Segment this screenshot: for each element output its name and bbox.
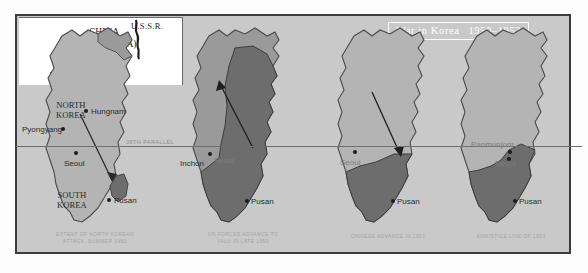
figure-page: War in Korea1950–1953 CHINA (MANCHURIA) …: [0, 0, 588, 273]
map-armistice-line: [443, 26, 583, 241]
map-caption-4: ARMISTICE LINE OF 1953: [436, 233, 586, 240]
map-caption-2-line1: UN FORCES ADVANCE TO: [208, 232, 278, 237]
city-label-inchon: Inchon: [180, 159, 204, 168]
map-caption-2: UN FORCES ADVANCE TO YALU IN LATE 1950: [168, 231, 318, 245]
city-label-pusan-2: Pusan: [251, 197, 274, 206]
city-label-pusan-1: Pusan: [114, 196, 137, 205]
city-label-seoul-1: Seoul: [64, 159, 84, 168]
city-dot-pusan-3: [391, 199, 395, 203]
map-caption-1-line2: ATTACK, SUMMER 1950: [63, 239, 127, 244]
map-caption-3-line1: CHINESE ADVANCE IN 1951: [351, 234, 426, 239]
south-korea-line2: KOREA: [57, 200, 87, 210]
region-label-south-korea: SOUTH KOREA: [57, 190, 87, 210]
city-label-seoul-4: Seoul: [495, 159, 515, 168]
map-caption-4-line1: ARMISTICE LINE OF 1953: [476, 234, 545, 239]
city-dot-pusan-2: [245, 199, 249, 203]
map-caption-1-line1: EXTENT OF NORTH KOREAN: [56, 232, 134, 237]
north-korea-line1: NORTH: [56, 100, 85, 110]
korea-peninsula-svg-4: [443, 26, 583, 241]
city-label-seoul-2: Seoul: [214, 156, 234, 165]
korea-peninsula-svg-2: [175, 26, 315, 241]
city-dot-hungnam: [84, 109, 88, 113]
map-caption-2-line2: YALU IN LATE 1950: [217, 239, 269, 244]
city-label-seoul-3: Seoul: [340, 158, 360, 167]
city-dot-seoul-3: [353, 150, 357, 154]
city-dot-pyongyang: [61, 127, 65, 131]
map-chinese-advance: [320, 26, 460, 241]
city-label-pusan-3: Pusan: [397, 197, 420, 206]
city-dot-pusan-4: [513, 199, 517, 203]
city-label-pyongyang: Pyongyang: [22, 125, 62, 134]
south-korea-line1: SOUTH: [57, 190, 86, 200]
city-dot-panmunjom: [508, 150, 512, 154]
city-label-panmunjom: Panmunjom: [471, 140, 514, 149]
city-dot-seoul-2: [208, 152, 212, 156]
city-dot-seoul-4: [507, 157, 511, 161]
city-dot-seoul-1: [74, 151, 78, 155]
north-korea-line2: KOREA: [56, 110, 86, 120]
map-un-forces-advance: [175, 26, 315, 241]
parallel-label-1: 38TH PARALLEL: [126, 139, 174, 145]
map-caption-1: EXTENT OF NORTH KOREAN ATTACK, SUMMER 19…: [20, 231, 170, 245]
city-dot-pusan-1: [107, 198, 111, 202]
city-label-pusan-4: Pusan: [519, 197, 542, 206]
korea-peninsula-svg-3: [320, 26, 460, 241]
city-label-hungnam: Hungnam: [91, 107, 126, 116]
region-label-north-korea: NORTH KOREA: [56, 100, 86, 120]
